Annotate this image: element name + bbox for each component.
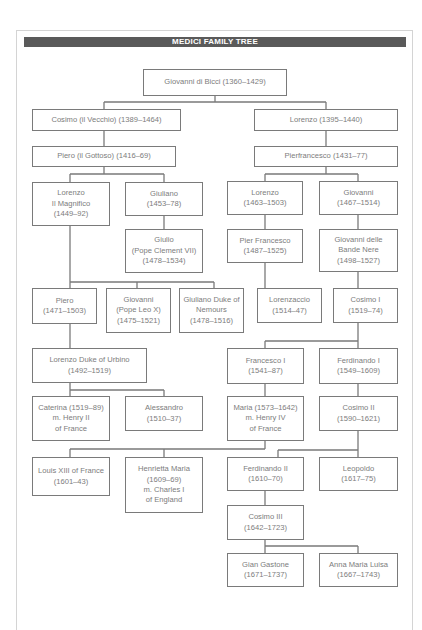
- node-giovanni-pope-leo-x: Giovanni(Pope Leo X)(1475–1521): [106, 288, 171, 333]
- node-leopoldo: Leopoldo(1617–75): [319, 457, 398, 491]
- node-louis-xiii: Louis XIII of France(1601–43): [32, 457, 110, 496]
- node-lorenzo-il-magnifico: LorenzoIl Magnifico(1449–92): [32, 182, 110, 226]
- node-giovanni-di-bicci: Giovanni di Bicci (1360–1429): [143, 69, 287, 96]
- node-cosimo-i: Cosimo I(1519–74): [333, 288, 398, 323]
- node-piero-il-gottoso: Piero (il Gottoso) (1416–69): [32, 146, 176, 167]
- node-anna-maria-luisa: Anna Maria Luisa(1667–1743): [319, 553, 398, 587]
- node-giulio: Giulio(Pope Clement VII)(1478–1534): [125, 229, 203, 273]
- node-giuliano: Giuliano(1453–78): [125, 182, 203, 216]
- node-henrietta-maria: Henrietta Maria(1609–69)m. Charles Iof E…: [125, 457, 203, 513]
- node-caterina: Caterina (1519–89)m. Henry IIof France: [32, 396, 110, 441]
- node-piero-1471: Piero(1471–1503): [32, 288, 97, 324]
- node-lorenzo-duke-of-urbino: Lorenzo Duke of Urbino(1492–1519): [32, 348, 147, 383]
- node-gian-gastone: Gian Gastone(1671–1737): [227, 553, 304, 587]
- node-cosimo-ii: Cosimo II(1590–1621): [319, 396, 398, 431]
- node-pier-francesco: Pier Francesco(1487–1525): [227, 229, 303, 263]
- node-lorenzo-1463: Lorenzo(1463–1503): [227, 181, 303, 215]
- node-ferdinando-ii: Ferdinando II(1610–70): [227, 457, 304, 491]
- node-alessandro: Alessandro(1510–37): [125, 396, 203, 431]
- node-lorenzaccio: Lorenzaccio(1514–47): [257, 288, 322, 323]
- node-pierfrancesco: Pierfrancesco (1431–77): [254, 146, 398, 167]
- node-giovanni-1467: Giovanni(1467–1514): [319, 181, 398, 215]
- node-ferdinando-i: Ferdinando I(1549–1609): [319, 348, 398, 384]
- node-cosimo-il-vecchio: Cosimo (il Vecchio) (1389–1464): [32, 109, 181, 131]
- node-francesco-i: Francesco I(1541–87): [227, 348, 304, 384]
- node-giovanni-delle-bande-nere: Giovanni delleBande Nere(1498–1527): [319, 229, 398, 272]
- node-lorenzo-1395: Lorenzo (1395–1440): [254, 109, 398, 131]
- node-giuliano-duke-of-nemours: Giuliano Duke ofNemours(1478–1516): [179, 288, 244, 333]
- node-cosimo-iii: Cosimo III(1642–1723): [227, 505, 304, 540]
- node-maria: Maria (1573–1642)m. Henry IVof France: [227, 396, 304, 441]
